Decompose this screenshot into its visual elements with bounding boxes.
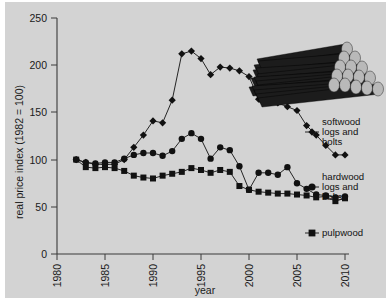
y-tick-label-150: 150 [29,106,47,118]
square-marker-icon [294,192,300,198]
x-tick-label-1985: 1985 [99,264,111,288]
figure-panel: real price index (1982 = 100) 250 200 15… [5,2,386,298]
x-tick-label-2010: 2010 [339,264,351,288]
x-tick-label-1990: 1990 [147,264,159,288]
y-tick-label-200: 200 [29,59,47,71]
chart-page: real price index (1982 = 100) 250 200 15… [0,0,389,308]
square-marker-icon [236,183,242,189]
x-tick-label-2005: 2005 [291,264,303,288]
y-tick-label-50: 50 [35,201,47,213]
diamond-marker-icon [169,97,176,104]
square-marker-icon [313,194,319,200]
x-tick-label-1980: 1980 [51,264,63,288]
y-axis-ticks: 250 200 150 100 50 0 [29,12,57,260]
circle-marker-icon [188,130,194,136]
square-marker-icon [121,168,127,174]
x-tick-label-2000: 2000 [243,264,255,288]
diamond-marker-icon [178,50,185,57]
square-marker-icon [112,165,118,171]
diamond-marker-icon [236,67,243,74]
circle-marker-icon [198,136,204,142]
square-marker-icon [265,190,271,196]
square-marker-icon [160,173,166,179]
square-marker-icon [150,175,156,181]
circle-marker-icon [131,152,137,158]
x-axis-title: year [195,284,216,296]
circle-marker-icon [217,144,223,150]
legend-item-softwood[interactable]: softwood logs and bolts [305,116,360,147]
square-marker-icon [304,192,310,198]
square-marker-icon [342,195,348,201]
square-marker-icon [169,171,175,177]
square-marker-icon [246,187,252,193]
square-marker-icon [275,191,281,197]
square-marker-icon [83,164,89,170]
square-marker-icon [198,167,204,173]
square-marker-icon [188,165,194,171]
square-marker-icon [140,175,146,181]
legend-label-hardwood-line3: bolts [322,191,342,202]
square-marker-icon [102,164,108,170]
y-tick-label-250: 250 [29,12,47,24]
square-marker-icon [227,169,233,175]
circle-marker-icon [169,148,175,154]
circle-marker-icon [265,170,271,176]
circle-marker-icon [236,163,242,169]
y-tick-label-100: 100 [29,154,47,166]
diamond-marker-icon [226,64,233,71]
y-tick-label-0: 0 [41,248,47,260]
square-marker-icon [73,157,79,163]
legend-label-pulpwood: pulpwood [322,227,363,238]
diamond-marker-icon [159,119,166,126]
circle-marker-icon [294,180,300,186]
square-marker-icon [256,189,262,195]
square-marker-icon [284,191,290,197]
circle-marker-icon [150,150,156,156]
diamond-marker-icon [293,107,300,114]
square-marker-icon [217,167,223,173]
legend-label-softwood-line3: bolts [322,136,342,147]
circle-marker-icon [159,153,165,159]
x-axis-ticks: 1980 1985 1990 1995 2000 2005 2010 [51,254,351,287]
legend-item-pulpwood[interactable]: pulpwood [305,227,363,238]
y-axis-title: real price index (1982 = 100) [13,85,25,219]
square-marker-icon [309,230,316,237]
circle-marker-icon [284,164,290,170]
circle-marker-icon [121,155,127,161]
circle-marker-icon [227,147,233,153]
square-marker-icon [208,170,214,176]
circle-marker-icon [275,172,281,178]
circle-marker-icon [308,183,315,190]
diamond-marker-icon [341,151,348,158]
square-marker-icon [179,169,185,175]
diamond-marker-icon [149,117,156,124]
chart-canvas: real price index (1982 = 100) 250 200 15… [5,2,386,298]
circle-marker-icon [179,136,185,142]
circle-marker-icon [255,170,261,176]
circle-marker-icon [111,159,117,165]
circle-marker-icon [140,150,146,156]
square-marker-icon [92,165,98,171]
square-marker-icon [131,173,137,179]
log-pile-illustration [249,42,384,107]
circle-marker-icon [207,155,213,161]
